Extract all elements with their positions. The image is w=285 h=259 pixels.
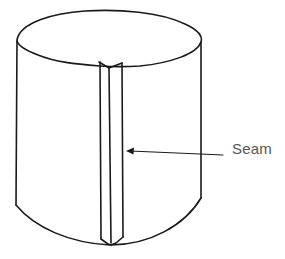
seam-strip — [99, 62, 123, 245]
seam-right-edge — [122, 63, 123, 237]
seam-bottom-fold — [101, 237, 123, 245]
cylinder-bottom-arc — [16, 198, 201, 245]
seam-label: Seam — [232, 140, 272, 158]
cylinder-top-ellipse — [17, 10, 201, 66]
cylinder-diagram — [0, 0, 285, 259]
seam-callout-arrow — [126, 148, 223, 156]
arrow-head-icon — [126, 148, 134, 155]
seam-center-fold — [109, 68, 111, 243]
cylinder-left-wall — [16, 41, 17, 205]
arrow-shaft — [130, 151, 223, 155]
seam-left-edge — [100, 62, 101, 239]
